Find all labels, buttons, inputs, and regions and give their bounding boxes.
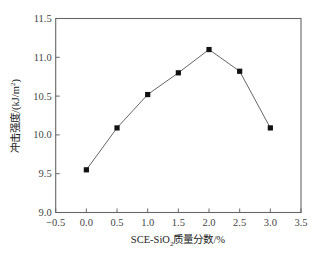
x-axis-title: SCE-SiO2质量分数/% — [131, 233, 226, 248]
series-line — [86, 50, 270, 170]
x-tick-label: 0.0 — [80, 217, 93, 228]
y-tick-label: 9.5 — [39, 168, 52, 179]
y-axis-title: 冲击强度/(kJ/m2) — [9, 79, 22, 153]
impact-strength-chart: 9.09.510.010.511.011.5 −0.50.00.51.01.52… — [0, 0, 324, 254]
y-tick-label: 10.5 — [33, 91, 51, 102]
x-tick-label: 1.0 — [141, 217, 154, 228]
data-series — [84, 47, 273, 172]
data-point-marker — [84, 167, 89, 172]
y-tick-label: 11.0 — [34, 52, 52, 63]
x-tick-label: −0.5 — [46, 217, 65, 228]
data-point-marker — [145, 92, 150, 97]
data-point-marker — [237, 69, 242, 74]
x-tick-label: 2.0 — [202, 217, 215, 228]
x-axis-ticks: −0.50.00.51.01.52.02.53.03.5 — [46, 209, 307, 228]
x-tick-label: 3.0 — [264, 217, 277, 228]
data-point-marker — [268, 125, 273, 130]
x-tick-label: 2.5 — [233, 217, 246, 228]
x-tick-label: 3.5 — [294, 217, 307, 228]
y-tick-label: 10.0 — [33, 129, 51, 140]
x-tick-label: 1.5 — [172, 217, 185, 228]
x-tick-label: 0.5 — [110, 217, 123, 228]
y-tick-label: 11.5 — [34, 13, 52, 24]
data-point-marker — [206, 47, 211, 52]
data-point-marker — [176, 70, 181, 75]
plot-frame — [56, 19, 301, 213]
data-point-marker — [114, 125, 119, 130]
